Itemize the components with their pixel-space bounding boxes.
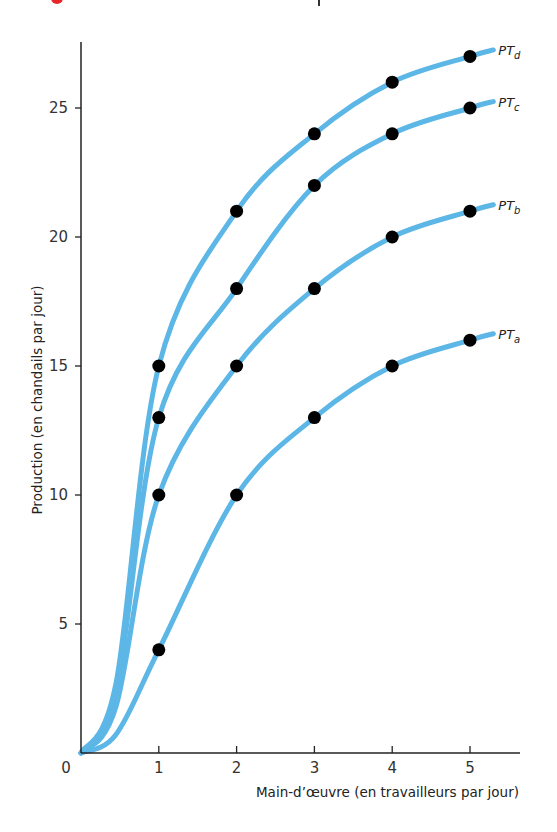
data-point [308,127,321,140]
data-point [386,360,399,373]
series-label-pta: PTa [498,327,520,345]
data-point [386,76,399,89]
y-tick-label: 10 [49,486,68,504]
y-tick-label: 20 [49,228,68,246]
data-point [230,282,243,295]
x-tick-label: 0 [61,759,71,777]
y-ticks: 510152025 [49,99,81,633]
curve-pta [81,334,493,753]
data-point [464,334,477,347]
series-label-ptd: PTd [498,43,521,61]
data-point [152,360,165,373]
data-point [386,127,399,140]
x-tick-label: 1 [154,759,164,777]
curves-layer [81,50,493,753]
x-tick-label: 5 [465,759,475,777]
x-tick-label: 3 [310,759,320,777]
data-point [308,179,321,192]
x-ticks: 012345 [61,746,475,777]
y-tick-label: 25 [49,99,68,117]
x-tick-label: 4 [387,759,397,777]
red-bullet-fragment [51,0,63,4]
data-point [386,231,399,244]
total-product-chart: 510152025 012345 Production (en chandail… [0,0,557,832]
data-point [230,360,243,373]
data-point [152,411,165,424]
series-labels: PTaPTbPTcPTd [498,43,521,345]
header-fragment [318,0,320,6]
data-point [308,411,321,424]
data-point [308,282,321,295]
data-point [464,102,477,115]
data-point [152,643,165,656]
y-axis-title: Production (en chandails par jour) [29,285,45,514]
x-axis-title: Main-d’œuvre (en travailleurs par jour) [256,784,519,800]
y-tick-label: 15 [49,357,68,375]
y-tick-label: 5 [58,615,68,633]
x-tick-label: 2 [232,759,242,777]
series-label-ptc: PTc [498,95,520,113]
data-point [230,489,243,502]
data-point [230,205,243,218]
data-point [464,50,477,63]
series-label-ptb: PTb [498,198,520,216]
data-point [152,489,165,502]
curve-ptd [81,50,493,753]
data-point [464,205,477,218]
curve-ptc [81,102,493,753]
axes [81,42,520,753]
